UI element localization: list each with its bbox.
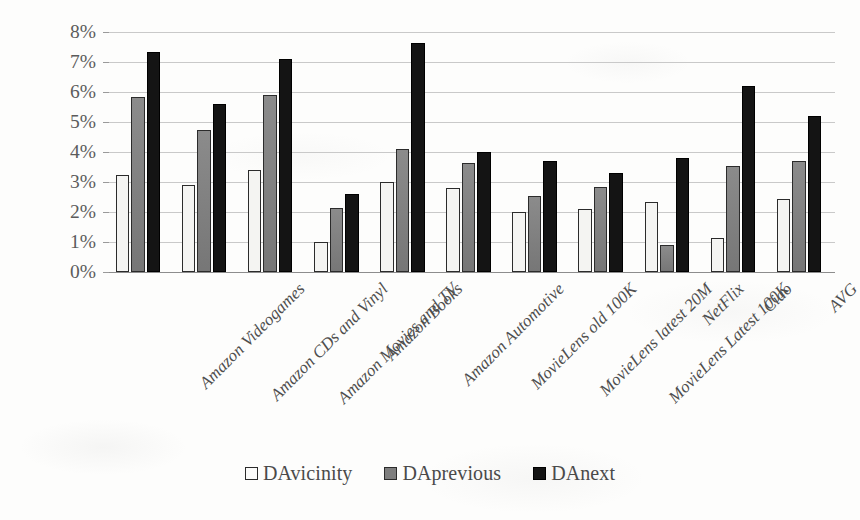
legend-label: DAprevious: [402, 462, 501, 485]
bar: [645, 202, 659, 273]
bar: [116, 175, 130, 273]
y-axis-tick-labels: 0%1%2%3%4%5%6%7%8%: [44, 32, 102, 272]
bar: [396, 149, 410, 272]
bar: [777, 199, 791, 273]
plot-area: [108, 32, 835, 272]
bar-group: [314, 32, 359, 272]
chart-page: 0%1%2%3%4%5%6%7%8% Amazon VideogamesAmaz…: [0, 0, 860, 520]
bar-group: [380, 32, 425, 272]
bar: [345, 194, 359, 272]
bar: [279, 59, 293, 272]
bar: [263, 95, 277, 272]
x-axis-category-label: Amazon Books: [383, 280, 467, 364]
bar-group: [777, 32, 822, 272]
y-axis-tick-label: 6%: [70, 82, 96, 102]
bar: [131, 97, 145, 273]
bar: [808, 116, 822, 272]
bar-group: [182, 32, 227, 272]
bar: [792, 161, 806, 272]
bar: [380, 182, 394, 272]
y-axis-tick-label: 7%: [70, 52, 96, 72]
bar: [147, 52, 161, 273]
bar: [411, 43, 425, 273]
bar: [676, 158, 690, 272]
bar-group: [248, 32, 293, 272]
bar: [543, 161, 557, 272]
bar-group: [711, 32, 756, 272]
bar-group: [578, 32, 623, 272]
legend-label: DAnext: [551, 462, 615, 485]
bar: [462, 163, 476, 273]
y-axis-tick-label: 4%: [70, 142, 96, 162]
bar: [248, 170, 262, 272]
bar: [446, 188, 460, 272]
open-square-icon: [245, 467, 258, 480]
bar: [330, 208, 344, 273]
y-axis-tick-label: 8%: [70, 22, 96, 42]
x-axis-category-label: AVG: [825, 280, 860, 315]
bar: [660, 245, 674, 272]
axis-baseline: [108, 272, 835, 273]
bar-group: [116, 32, 161, 272]
bar-groups: [108, 32, 835, 272]
bar: [477, 152, 491, 272]
bar: [528, 196, 542, 273]
y-axis-tick-label: 3%: [70, 172, 96, 192]
y-axis-tick-label: 2%: [70, 202, 96, 222]
bar: [182, 185, 196, 272]
bar: [578, 209, 592, 272]
bar: [314, 242, 328, 272]
bar-group: [512, 32, 557, 272]
bar-group: [645, 32, 690, 272]
bar: [213, 104, 227, 272]
bar: [726, 166, 740, 273]
black-square-icon: [533, 467, 546, 480]
bar: [197, 130, 211, 273]
bar: [594, 187, 608, 273]
y-axis-tick-label: 5%: [70, 112, 96, 132]
legend-entry[interactable]: DAnext: [533, 462, 615, 485]
bar: [711, 238, 725, 273]
bar-group: [446, 32, 491, 272]
legend-entry[interactable]: DAvicinity: [245, 462, 353, 485]
legend-label: DAvicinity: [263, 462, 353, 485]
bar: [742, 86, 756, 272]
legend-entry[interactable]: DAprevious: [384, 462, 501, 485]
y-axis-tick: [103, 272, 109, 273]
bar: [609, 173, 623, 272]
bar: [512, 212, 526, 272]
chart-legend: DAvicinityDApreviousDAnext: [0, 462, 860, 485]
x-axis-category-labels: Amazon VideogamesAmazon CDs and VinylAma…: [0, 274, 860, 449]
y-axis-tick-label: 1%: [70, 232, 96, 252]
gray-square-icon: [384, 467, 397, 480]
